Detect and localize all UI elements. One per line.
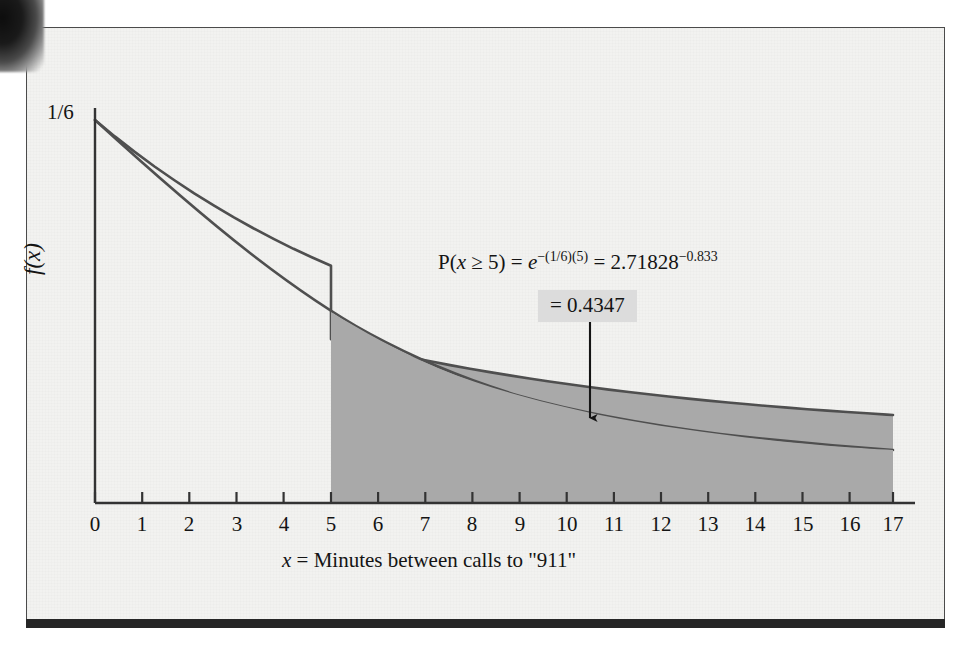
x-tick-label-10: 10 — [547, 512, 587, 537]
x-tick-label-16: 16 — [830, 512, 870, 537]
x-tick-label-9: 9 — [500, 512, 540, 537]
x-tick-label-0: 0 — [75, 512, 115, 537]
figure-root: 1/6 f(x) 0 1 2 3 4 5 6 7 8 9 10 11 12 13… — [0, 0, 973, 660]
formula-equals: = 2.71828 — [588, 250, 679, 274]
y-axis-title: f(x) — [20, 243, 46, 275]
x-tick-label-14: 14 — [735, 512, 775, 537]
x-tick-label-2: 2 — [169, 512, 209, 537]
formula-exponent-2: −0.833 — [679, 249, 718, 264]
x-tick-label-3: 3 — [217, 512, 257, 537]
x-tick-label-6: 6 — [358, 512, 398, 537]
formula-prefix: P( — [438, 250, 457, 274]
x-tick-label-1: 1 — [122, 512, 162, 537]
x-tick-label-8: 8 — [452, 512, 492, 537]
x-tick-label-7: 7 — [405, 512, 445, 537]
x-tick-label-15: 15 — [783, 512, 823, 537]
x-tick-label-11: 11 — [594, 512, 634, 537]
x-tick-label-17: 17 — [873, 512, 913, 537]
annotation-formula-line1: P(x ≥ 5) = e−(1/6)(5) = 2.71828−0.833 — [438, 250, 718, 275]
x-tick-label-13: 13 — [688, 512, 728, 537]
y-axis-top-label: 1/6 — [47, 100, 74, 125]
x-tick-label-12: 12 — [641, 512, 681, 537]
x-tick-label-4: 4 — [264, 512, 304, 537]
x-axis-title-text: = Minutes between calls to "911" — [291, 548, 576, 572]
x-axis-title: x = Minutes between calls to "911" — [282, 548, 576, 573]
x-tick-label-5: 5 — [311, 512, 351, 537]
formula-mid: ≥ 5) = — [466, 250, 528, 274]
formula-exponent-1: −(1/6)(5) — [537, 249, 588, 264]
formula-base-e: e — [528, 250, 537, 274]
annotation-result-highlight: = 0.4347 — [538, 290, 637, 322]
formula-variable: x — [457, 250, 466, 274]
bottom-rule — [26, 619, 945, 628]
x-axis-title-variable: x — [282, 548, 291, 572]
